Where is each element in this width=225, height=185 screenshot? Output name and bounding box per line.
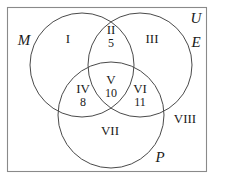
set-label-p: P <box>155 150 164 165</box>
region-label-iii: III <box>146 32 159 45</box>
region-label-vii: VII <box>101 124 119 137</box>
region-v-roman: V <box>106 73 115 87</box>
venn-diagram: M E P U I II 5 III IV 8 V 10 VI 11 VII V… <box>0 0 225 185</box>
region-label-iv: IV 8 <box>76 82 90 108</box>
region-iv-count: 8 <box>80 96 86 109</box>
region-label-vi: VI 11 <box>133 82 147 108</box>
region-label-v: V 10 <box>105 73 117 99</box>
region-ii-roman: II <box>107 23 116 37</box>
set-label-e: E <box>191 35 200 50</box>
region-ii-count: 5 <box>108 37 114 50</box>
set-label-m: M <box>18 33 31 48</box>
region-vi-count: 11 <box>134 96 146 109</box>
region-label-viii: VIII <box>174 112 196 125</box>
region-label-ii: II 5 <box>107 23 116 49</box>
region-label-i: I <box>66 32 70 45</box>
region-vi-roman: VI <box>133 82 147 96</box>
region-v-count: 10 <box>105 87 117 100</box>
region-iv-roman: IV <box>76 82 90 96</box>
universe-label-u: U <box>191 11 202 26</box>
